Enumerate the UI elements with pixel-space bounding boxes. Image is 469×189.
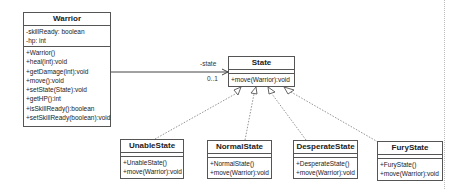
page-boundary-line: [444, 0, 445, 189]
realization-triangle-icon: [251, 87, 257, 94]
class-normal-state[interactable]: NormalState +NormalState() +move(Warrior…: [207, 140, 272, 179]
operation: +move(Warrior):void: [210, 168, 269, 177]
operation: +move(Warrior):void: [296, 168, 355, 177]
class-name: DesperateState: [294, 141, 357, 154]
operations-section: +UnableState() +move(Warrior):void: [121, 157, 183, 178]
operation: +Warrior(): [26, 48, 108, 57]
operations-section: +NormalState() +move(Warrior):void: [208, 158, 271, 179]
class-name: State: [229, 57, 294, 70]
operation: +UnableState(): [123, 158, 181, 167]
realization-triangle-icon: [268, 87, 275, 94]
realization-line-fury: [291, 92, 378, 142]
association-multiplicity-label: 0..1: [207, 75, 218, 82]
operation: +move():void: [26, 76, 108, 85]
class-name: Warrior: [24, 13, 110, 26]
operation: +isSkillReady():boolean: [26, 104, 108, 113]
attribute: -hp: int: [26, 36, 108, 45]
attribute: -skillReady: boolean: [26, 27, 108, 36]
class-name: FuryState: [378, 142, 442, 155]
operations-section: +DesperateState() +move(Warrior):void: [294, 158, 357, 179]
operation: +DesperateState(): [296, 159, 355, 168]
operation: +setSkillReady(boolean):void: [26, 113, 108, 122]
operation: +getDamage(int):void: [26, 67, 108, 76]
realization-line-desperate: [272, 94, 306, 140]
attributes-section: -skillReady: boolean -hp: int: [24, 26, 110, 47]
realization-triangle-icon: [284, 87, 294, 94]
class-unable-state[interactable]: UnableState +UnableState() +move(Warrior…: [120, 139, 184, 179]
operation: +move(Warrior):void: [380, 169, 440, 178]
operations-section: +FuryState() +move(Warrior):void: [378, 159, 442, 180]
class-name: NormalState: [208, 141, 271, 154]
operations-section: +Warrior() +heal(int):void +getDamage(in…: [24, 47, 110, 123]
realization-triangle-icon: [234, 87, 241, 95]
operation: +move(Warrior):void: [231, 75, 292, 84]
operation: +getHP():int: [26, 94, 108, 103]
operations-section: +move(Warrior):void: [229, 74, 294, 85]
realization-line-unable: [155, 93, 237, 139]
operation: +move(Warrior):void: [123, 167, 181, 176]
class-desperate-state[interactable]: DesperateState +DesperateState() +move(W…: [293, 140, 358, 179]
association-role-label: -state: [200, 60, 216, 67]
operation: +FuryState(): [380, 160, 440, 169]
operation: +heal(int):void: [26, 57, 108, 66]
class-state[interactable]: State +move(Warrior):void: [228, 56, 295, 87]
operation: +setState(State):void: [26, 85, 108, 94]
class-warrior[interactable]: Warrior -skillReady: boolean -hp: int +W…: [23, 12, 111, 127]
class-name: UnableState: [121, 140, 183, 153]
operation: +NormalState(): [210, 159, 269, 168]
realization-line-normal: [245, 94, 254, 140]
class-fury-state[interactable]: FuryState +FuryState() +move(Warrior):vo…: [377, 141, 443, 181]
